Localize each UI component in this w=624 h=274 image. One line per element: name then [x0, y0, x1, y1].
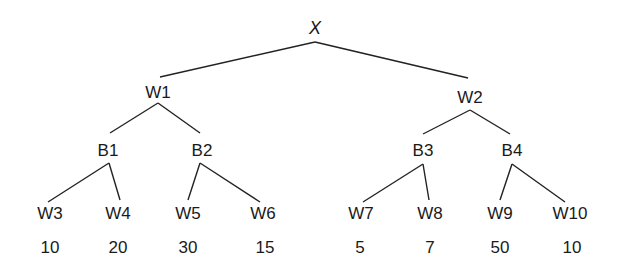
leaf-value-w9: 50 — [491, 239, 510, 256]
edge-w1-b2 — [158, 103, 200, 133]
edge-x-w2 — [315, 42, 468, 78]
leaf-w10: W10 — [553, 205, 588, 222]
node-b4: B4 — [502, 142, 523, 159]
edge-b1-w3 — [48, 163, 109, 202]
edge-b2-w5 — [188, 163, 200, 200]
leaf-w8: W8 — [417, 205, 443, 222]
leaf-value-w3: 10 — [41, 239, 60, 256]
node-b2: B2 — [192, 142, 213, 159]
node-w1: W1 — [145, 84, 171, 101]
leaf-value-w4: 20 — [109, 239, 128, 256]
node-root-x: X — [309, 19, 321, 37]
leaf-w3: W3 — [37, 205, 63, 222]
leaf-w9: W9 — [487, 205, 513, 222]
edge-x-w1 — [160, 42, 315, 77]
edge-w2-b3 — [423, 110, 470, 134]
node-w2: W2 — [457, 89, 483, 106]
leaf-value-w5: 30 — [179, 239, 198, 256]
leaf-value-w8: 7 — [425, 239, 434, 256]
leaf-w7: W7 — [348, 205, 374, 222]
tree-edges — [0, 0, 624, 274]
game-tree-diagram: X W1 W2 B1 B2 B3 B4 W3 W4 W5 W6 W7 W8 W9… — [0, 0, 624, 274]
leaf-value-w7: 5 — [355, 239, 364, 256]
edge-b3-w7 — [363, 164, 423, 202]
edge-b4-w10 — [512, 164, 565, 202]
node-b3: B3 — [413, 142, 434, 159]
leaf-w6: W6 — [250, 205, 276, 222]
leaf-w5: W5 — [175, 205, 201, 222]
edge-b2-w6 — [200, 163, 260, 202]
leaf-value-w6: 15 — [256, 239, 275, 256]
leaf-w4: W4 — [105, 205, 131, 222]
edge-b3-w8 — [423, 164, 429, 200]
edge-b4-w9 — [500, 164, 512, 200]
edge-w1-b1 — [110, 103, 158, 133]
edge-w2-b4 — [470, 110, 510, 134]
node-b1: B1 — [98, 142, 119, 159]
edge-b1-w4 — [109, 163, 120, 200]
leaf-value-w10: 10 — [563, 239, 582, 256]
